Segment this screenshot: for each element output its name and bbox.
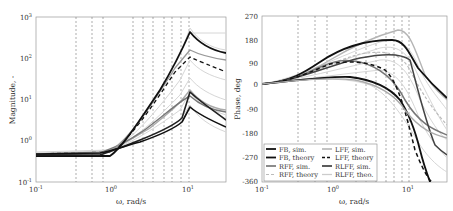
svg-text:10-1: 10-1 <box>29 184 43 194</box>
svg-text:101: 101 <box>402 184 414 194</box>
phase-x-label: ω, rad/s <box>339 197 369 206</box>
magnitude-plot: 103 102 101 100 10-1 10-1 100 101 ω, rad… <box>8 12 226 206</box>
svg-text:102: 102 <box>20 53 32 63</box>
svg-text:90: 90 <box>249 60 258 68</box>
figure: 103 102 101 100 10-1 10-1 100 101 ω, rad… <box>0 0 453 211</box>
svg-text:0: 0 <box>254 81 258 89</box>
svg-text:RLFF, sim.: RLFF, sim. <box>335 163 371 171</box>
svg-text:100: 100 <box>20 135 32 145</box>
svg-text:10-1: 10-1 <box>255 184 269 194</box>
phase-x-ticks: 10-1 100 101 <box>255 184 414 194</box>
svg-text:RLFF, theo.: RLFF, theo. <box>335 171 373 179</box>
svg-text:-270: -270 <box>242 154 258 162</box>
svg-text:180: 180 <box>245 37 258 45</box>
svg-text:-90: -90 <box>247 106 258 114</box>
svg-text:103: 103 <box>20 12 32 22</box>
magnitude-x-label: ω, rad/s <box>116 197 146 206</box>
svg-text:270: 270 <box>245 13 258 21</box>
svg-text:RFF, sim.: RFF, sim. <box>279 163 310 171</box>
svg-text:LFF, sim.: LFF, sim. <box>335 146 366 154</box>
svg-text:FB, theory: FB, theory <box>279 154 315 162</box>
svg-text:LFF, theory: LFF, theory <box>335 154 374 162</box>
svg-text:100: 100 <box>105 184 117 194</box>
svg-text:-360: -360 <box>242 178 258 186</box>
magnitude-y-label: Magnitude, - <box>8 75 17 124</box>
svg-text:RFF, theory: RFF, theory <box>279 171 318 179</box>
phase-y-ticks: 270 180 90 0 -90 -180 -270 -360 <box>242 13 258 186</box>
svg-text:101: 101 <box>20 94 32 104</box>
svg-text:101: 101 <box>182 184 194 194</box>
magnitude-x-ticks: 10-1 100 101 <box>29 184 194 194</box>
legend: FB, sim. FB, theory RFF, sim. RFF, theor… <box>264 144 377 181</box>
svg-text:FB, sim.: FB, sim. <box>279 146 306 154</box>
phase-y-label: Phase, deg <box>233 78 242 120</box>
svg-text:100: 100 <box>327 184 339 194</box>
svg-text:-180: -180 <box>242 130 258 138</box>
magnitude-y-ticks: 103 102 101 100 10-1 <box>18 12 32 187</box>
phase-plot: 270 180 90 0 -90 -180 -270 -360 10-1 100… <box>233 13 447 206</box>
